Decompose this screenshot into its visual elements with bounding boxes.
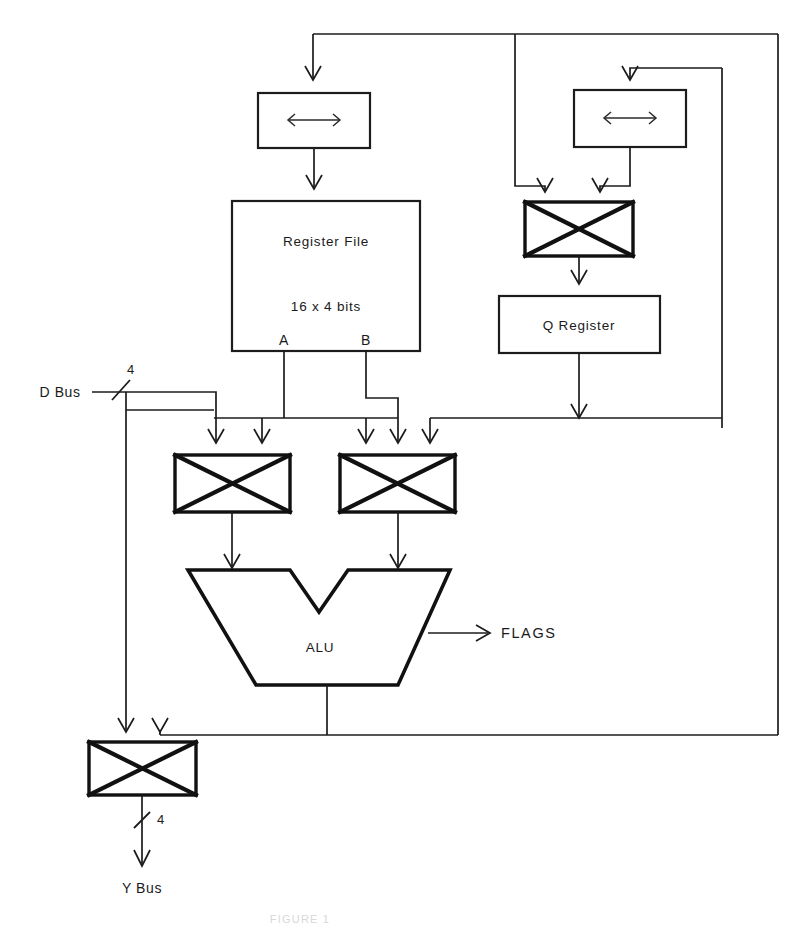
mux-left-to-alu-wire — [224, 512, 240, 568]
qregister-output-wire — [422, 353, 722, 443]
port-a-wire — [214, 351, 398, 443]
d-bus-wire — [92, 380, 224, 732]
register-file-block[interactable] — [232, 201, 420, 351]
alu-label: ALU — [306, 640, 335, 655]
block-diagram-canvas: ↔ ↔ Register File 16 x 4 bits A B — [0, 0, 796, 933]
flags-output-wire — [428, 625, 490, 641]
q-register-label: Q Register — [543, 318, 616, 333]
q-mux[interactable] — [525, 202, 633, 256]
alu-mux-right[interactable] — [340, 455, 455, 512]
register-file-port-b-label: B — [361, 332, 371, 348]
shifter-left-to-regfile-wire — [306, 148, 322, 189]
port-b-wire — [366, 351, 406, 443]
processor-datapath-schematic: ↔ ↔ Register File 16 x 4 bits A B — [0, 0, 796, 933]
register-file-size-label: 16 x 4 bits — [291, 299, 361, 314]
qmux-to-qregister-wire — [571, 256, 587, 284]
y-mux[interactable] — [89, 742, 196, 795]
register-file-port-a-label: A — [279, 332, 289, 348]
y-bus-width-label: 4 — [157, 812, 165, 827]
alu-output-bus-wire — [152, 685, 778, 735]
alu-block[interactable] — [188, 570, 450, 685]
d-bus-width-label: 4 — [127, 362, 135, 377]
register-file-label: Register File — [283, 234, 369, 249]
y-bus-label: Y Bus — [122, 880, 162, 896]
qmux-left-feed-wire — [515, 34, 553, 192]
y-bus-wire — [134, 795, 150, 866]
shifter-right-to-qmux-wire — [592, 147, 630, 192]
alu-mux-left[interactable] — [175, 455, 290, 512]
flags-label: FLAGS — [501, 625, 557, 641]
figure-caption: FIGURE 1 — [270, 913, 330, 925]
mux-right-to-alu-wire — [390, 512, 406, 568]
d-bus-label: D Bus — [39, 384, 80, 400]
top-feedback-bus — [305, 34, 778, 80]
